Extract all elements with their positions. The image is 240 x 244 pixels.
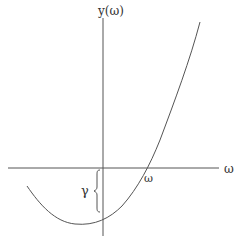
gamma-brace	[94, 170, 100, 212]
y-axis-label: y(ω)	[98, 5, 124, 17]
root-label: ω	[144, 173, 153, 184]
diagram-svg	[0, 0, 240, 244]
gamma-label: γ	[81, 184, 89, 197]
x-axis-label: ω	[224, 163, 234, 175]
diagram-canvas: y(ω) ω ω γ	[0, 0, 240, 244]
function-curve	[27, 22, 200, 224]
